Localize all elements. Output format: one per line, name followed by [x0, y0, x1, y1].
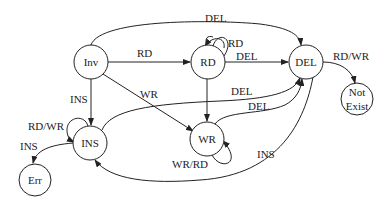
label-inv-del: DEL	[205, 12, 227, 24]
node-notexist-label-1: Not	[349, 86, 366, 98]
node-notexist-label-2: Exist	[346, 100, 369, 112]
label-del-ins: INS	[257, 148, 275, 160]
label-del-notexist: RD/WR	[333, 50, 370, 62]
node-wr: WR	[190, 122, 224, 156]
label-rd-del: DEL	[236, 50, 258, 62]
label-inv-rd: RD	[137, 47, 152, 59]
node-err: Err	[19, 164, 51, 196]
node-notexist: Not Exist	[341, 83, 373, 115]
node-inv: Inv	[74, 45, 108, 79]
label-ins-del: DEL	[231, 85, 253, 97]
edge-ins-del	[102, 78, 300, 130]
label-wr-self: WR/RD	[172, 158, 208, 170]
label-ins-err: INS	[20, 140, 38, 152]
edge-del-notexist	[323, 62, 355, 83]
label-inv-ins: INS	[70, 93, 88, 105]
node-ins: INS	[73, 126, 107, 160]
edge-ins-err	[33, 143, 73, 163]
node-err-label: Err	[28, 174, 42, 186]
state-diagram: DEL RD RD DEL RD/WR INS WR DEL DEL RD/WR…	[0, 0, 385, 207]
label-inv-wr: WR	[140, 88, 158, 100]
node-rd-label: RD	[200, 56, 215, 68]
edge-inv-wr	[103, 74, 193, 131]
node-wr-label: WR	[198, 133, 216, 145]
label-rd-self: RD	[228, 37, 243, 49]
edge-inv-del	[91, 22, 301, 45]
node-inv-label: Inv	[84, 56, 99, 68]
label-ins-self: RD/WR	[28, 120, 65, 132]
node-del-label: DEL	[295, 56, 317, 68]
node-rd: RD	[191, 45, 225, 79]
label-wr-del: DEL	[248, 100, 270, 112]
node-ins-label: INS	[81, 137, 99, 149]
node-del: DEL	[289, 45, 323, 79]
